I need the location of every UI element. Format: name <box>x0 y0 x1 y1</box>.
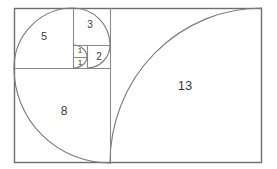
square-label-sq-5: 5 <box>41 30 47 42</box>
figure-background <box>0 0 277 169</box>
square-label-sq-1-lower: 1 <box>78 58 83 67</box>
square-label-sq-3: 3 <box>87 19 93 30</box>
fibonacci-spiral-figure: 13853211 <box>0 0 277 169</box>
square-label-sq-8: 8 <box>61 104 68 118</box>
square-label-sq-1-upper: 1 <box>78 46 83 55</box>
square-label-sq-2: 2 <box>96 51 102 62</box>
square-label-sq-13: 13 <box>178 78 192 93</box>
fibonacci-spiral-canvas: 13853211 <box>0 0 277 169</box>
